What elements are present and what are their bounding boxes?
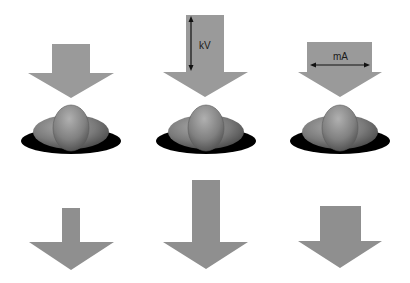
organ-kv: [156, 105, 256, 154]
outgoing-beam-kv: [163, 180, 248, 269]
outgoing-beam-baseline: [29, 208, 114, 270]
organ-baseline: [21, 105, 121, 154]
kv-label: kV: [199, 40, 211, 51]
incoming-beam-baseline: [28, 44, 114, 98]
xray-diagram: kV mA: [0, 0, 410, 283]
ma-label: mA: [333, 51, 348, 62]
incoming-beam-kv: kV: [163, 15, 248, 97]
outgoing-beam-ma: [298, 206, 382, 268]
incoming-beam-ma: mA: [298, 42, 382, 97]
organ-ma: [290, 105, 390, 154]
